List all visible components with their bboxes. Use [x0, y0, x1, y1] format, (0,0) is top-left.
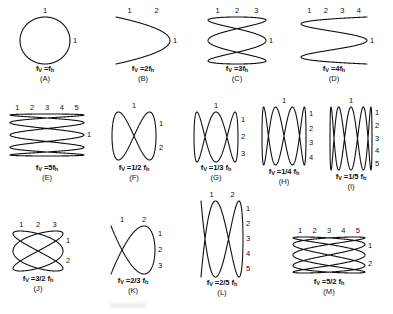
- scan-artifact-smudge: [110, 303, 146, 308]
- top-tick-label: 4: [338, 227, 348, 235]
- lissajous-figure-sheet: 11fV =fh(A)121fV =2fh(B)1231fV =3fh(C)12…: [0, 0, 393, 314]
- top-tick-label: 2: [310, 227, 320, 235]
- panel-letter-m: (M): [299, 287, 359, 296]
- top-tick-label: 5: [353, 227, 363, 235]
- top-tick-label: 3: [324, 227, 334, 235]
- lissajous-curve-m: [293, 237, 365, 273]
- right-tick-label: 2: [368, 260, 372, 268]
- top-tick-label: 1: [295, 227, 305, 235]
- right-tick-label: 1: [368, 242, 372, 250]
- lissajous-panel-m: 1234512fV =5/2 fh(M): [0, 0, 393, 314]
